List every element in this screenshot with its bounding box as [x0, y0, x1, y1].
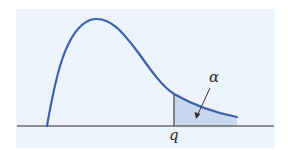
density-plot	[0, 0, 288, 150]
q-label: q	[169, 128, 179, 143]
alpha-label: α	[209, 70, 219, 85]
